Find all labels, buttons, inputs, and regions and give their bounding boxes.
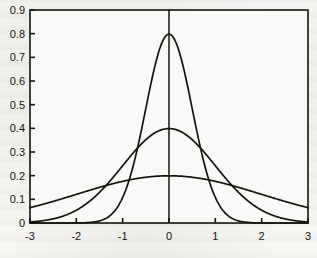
y-axis-tick-label: 0.9 xyxy=(10,4,25,16)
x-axis-tick-label: 2 xyxy=(259,230,265,242)
y-axis-tick-label: 0.3 xyxy=(10,146,25,158)
y-axis-tick-label: 0.1 xyxy=(10,193,25,205)
y-axis-tick-label: 0.4 xyxy=(10,122,25,134)
x-axis-tick-label: -3 xyxy=(25,230,35,242)
x-axis-tick-label: -2 xyxy=(71,230,81,242)
gaussian-distribution-chart: 00.10.20.30.40.50.60.70.80.9 -3-2-10123 xyxy=(0,0,317,258)
chart-page: 00.10.20.30.40.50.60.70.80.9 -3-2-10123 xyxy=(0,0,317,258)
y-axis-tick-label: 0.7 xyxy=(10,51,25,63)
x-axis-tick-label: 3 xyxy=(305,230,311,242)
y-axis-tick-label: 0.6 xyxy=(10,75,25,87)
x-axis-tick-label: 1 xyxy=(212,230,218,242)
y-axis-tick-label: 0.5 xyxy=(10,99,25,111)
y-axis-tick-label: 0 xyxy=(19,217,25,229)
x-axis-tick-label: -1 xyxy=(118,230,128,242)
y-axis-tick-label: 0.8 xyxy=(10,28,25,40)
y-axis-tick-label: 0.2 xyxy=(10,170,25,182)
x-axis-tick-label: 0 xyxy=(166,230,172,242)
